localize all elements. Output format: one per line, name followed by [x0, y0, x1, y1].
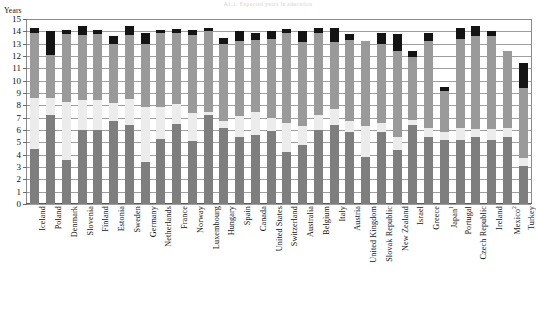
x-label-france: France: [180, 206, 189, 229]
y-tick-label-13: 13: [2, 40, 21, 49]
bar-segment-other-not-allocated: [330, 28, 339, 43]
y-tick-label-1: 1: [2, 188, 21, 197]
bar-israel[interactable]: [408, 51, 417, 204]
bar-segment-other-not-allocated: [172, 29, 181, 33]
bar-segment-primary-and-lower: [188, 141, 197, 204]
x-label-israel: Israel: [416, 206, 425, 225]
bar-iceland[interactable]: [30, 28, 39, 204]
bar-segment-tertiary-and-upper: [345, 40, 354, 121]
bar-japan[interactable]: [440, 87, 449, 204]
bar-segment-secondary: [519, 158, 528, 165]
bar-denmark[interactable]: [62, 30, 71, 204]
bar-austria[interactable]: [345, 34, 354, 204]
bar-segment-primary-and-lower: [330, 125, 339, 204]
y-tick-mark-13: [23, 44, 27, 45]
bar-poland[interactable]: [46, 31, 55, 204]
bar-spain[interactable]: [235, 31, 244, 204]
y-tick-mark-8: [23, 105, 27, 106]
bar-segment-tertiary-and-upper: [78, 35, 87, 100]
bar-sweden[interactable]: [125, 26, 134, 204]
bar-segment-tertiary-and-upper: [361, 41, 370, 126]
bar-turkey[interactable]: [519, 63, 528, 204]
bar-segment-secondary: [93, 100, 102, 130]
bar-italy[interactable]: [330, 28, 339, 204]
bar-segment-tertiary-and-upper: [125, 35, 134, 99]
chart-top-title: A1.1. Expected years in education: [0, 0, 536, 9]
bar-luxembourg[interactable]: [204, 28, 213, 204]
bar-segment-other-not-allocated: [377, 33, 386, 44]
bar-segment-tertiary-and-upper: [62, 34, 71, 102]
y-tick-mark-0: [23, 204, 27, 205]
plot-area: [27, 19, 531, 204]
x-label-united-kingdom: United Kingdom: [369, 206, 378, 263]
bar-ireland[interactable]: [487, 31, 496, 204]
x-label-poland: Poland: [54, 206, 63, 229]
plot-right-border: [531, 19, 532, 204]
bar-segment-secondary: [503, 128, 512, 138]
bar-canada[interactable]: [251, 33, 260, 204]
bar-segment-secondary: [172, 104, 181, 124]
x-label-austria: Austria: [353, 206, 362, 231]
bar-segment-tertiary-and-upper: [503, 51, 512, 127]
x-label-estonia: Estonia: [117, 206, 126, 231]
bar-segment-secondary: [330, 109, 339, 125]
bar-united-kingdom[interactable]: [361, 41, 370, 204]
bar-norway[interactable]: [188, 30, 197, 204]
y-tick-label-4: 4: [2, 151, 21, 160]
bar-australia[interactable]: [298, 31, 307, 204]
y-tick-mark-9: [23, 93, 27, 94]
x-label-hungary: Hungary: [227, 206, 236, 235]
bar-slovenia[interactable]: [78, 26, 87, 204]
bar-netherlands[interactable]: [156, 30, 165, 204]
bar-segment-other-not-allocated: [204, 28, 213, 32]
x-axis-category-labels: IcelandPolandDenmarkSloveniaFinlandEston…: [27, 206, 531, 312]
bar-segment-primary-and-lower: [204, 115, 213, 204]
bar-segment-other-not-allocated: [188, 30, 197, 35]
y-tick-mark-3: [23, 167, 27, 168]
bar-segment-primary-and-lower: [361, 157, 370, 204]
bar-segment-tertiary-and-upper: [141, 44, 150, 107]
bar-segment-secondary: [219, 121, 228, 127]
bar-segment-tertiary-and-upper: [235, 41, 244, 116]
bar-segment-primary-and-lower: [471, 137, 480, 204]
y-tick-label-11: 11: [2, 64, 21, 73]
bar-segment-other-not-allocated: [456, 28, 465, 39]
bar-germany[interactable]: [141, 33, 150, 204]
y-tick-mark-4: [23, 155, 27, 156]
bar-segment-tertiary-and-upper: [93, 34, 102, 101]
bar-segment-primary-and-lower: [78, 130, 87, 204]
x-label-greece: Greece: [432, 206, 441, 230]
y-tick-mark-6: [23, 130, 27, 131]
y-tick-mark-1: [23, 192, 27, 193]
bar-czech-republic[interactable]: [471, 26, 480, 204]
bar-segment-secondary: [393, 137, 402, 149]
bar-portugal[interactable]: [456, 28, 465, 204]
bar-segment-tertiary-and-upper: [282, 33, 291, 123]
bar-segment-secondary: [267, 118, 276, 132]
bar-slovak-republic[interactable]: [377, 33, 386, 204]
bar-estonia[interactable]: [109, 36, 118, 204]
bar-france[interactable]: [172, 29, 181, 204]
bar-segment-tertiary-and-upper: [204, 31, 213, 111]
bar-segment-tertiary-and-upper: [471, 36, 480, 129]
bar-belgium[interactable]: [314, 28, 323, 204]
bar-switzerland[interactable]: [282, 29, 291, 204]
bar-segment-other-not-allocated: [78, 26, 87, 35]
bar-hungary[interactable]: [219, 38, 228, 205]
bar-new-zealand[interactable]: [393, 34, 402, 204]
bar-segment-secondary: [471, 129, 480, 138]
x-label-united-states: United States: [275, 206, 284, 251]
bar-segment-secondary: [487, 129, 496, 140]
x-label-slovak-republic: Slovak Republic: [385, 206, 394, 262]
bar-segment-other-not-allocated: [156, 30, 165, 32]
bar-segment-other-not-allocated: [282, 29, 291, 33]
x-label-sweden: Sweden: [133, 206, 142, 233]
bar-mexico[interactable]: [503, 51, 512, 204]
bar-segment-secondary: [30, 98, 39, 149]
bar-united-states[interactable]: [267, 31, 276, 204]
bar-segment-secondary: [408, 120, 417, 125]
bar-segment-primary-and-lower: [93, 130, 102, 204]
bar-segment-tertiary-and-upper: [46, 55, 55, 98]
bar-finland[interactable]: [93, 30, 102, 204]
bar-greece[interactable]: [424, 33, 433, 204]
